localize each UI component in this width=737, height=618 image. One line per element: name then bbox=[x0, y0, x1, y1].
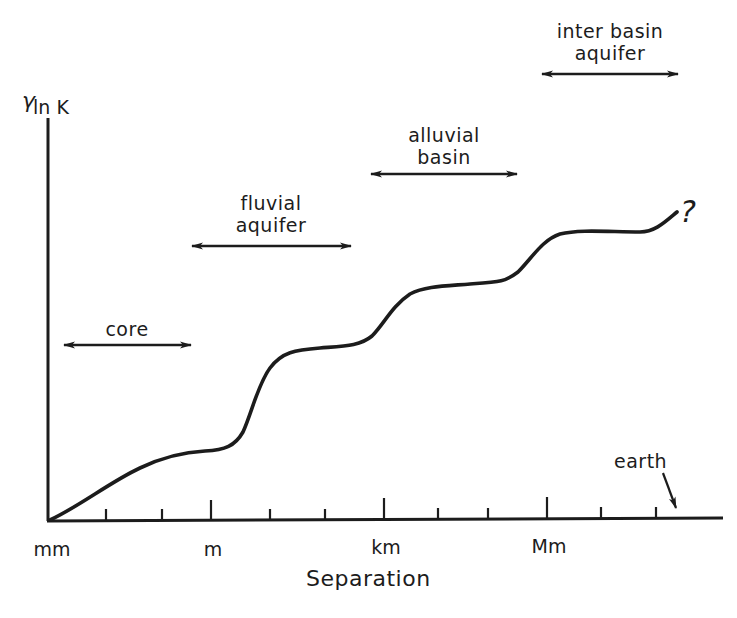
earth-pointer-arrow bbox=[663, 473, 676, 508]
variogram-diagram bbox=[0, 0, 737, 618]
x-tick-label-m: m bbox=[204, 538, 223, 560]
variogram-curve bbox=[50, 212, 677, 520]
fluvial-aquifer-label: fluvial aquifer bbox=[216, 192, 326, 236]
x-tick-label-mm: mm bbox=[33, 538, 70, 560]
earth-label: earth bbox=[614, 450, 667, 472]
question-mark: ? bbox=[680, 196, 696, 228]
y-axis-label: γln K bbox=[22, 88, 69, 113]
x-tick-label-Mm: Mm bbox=[532, 535, 567, 557]
inter-basin-aquifer-label: inter basin aquifer bbox=[540, 20, 680, 64]
alluvial-basin-label: alluvial basin bbox=[389, 124, 499, 168]
core-label: core bbox=[92, 318, 162, 340]
x-axis-title: Separation bbox=[306, 566, 431, 591]
x-tick-label-km: km bbox=[371, 536, 401, 558]
y-axis-subscript: ln K bbox=[33, 96, 69, 118]
